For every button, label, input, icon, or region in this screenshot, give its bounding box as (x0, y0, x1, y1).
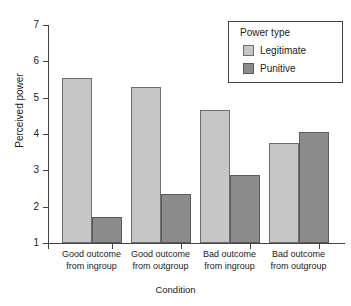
y-tick-label-3: 3 (33, 163, 39, 176)
bar-legitimate-bad-ingroup (200, 110, 230, 243)
x-category-label-3: Bad outcome from outgroup (246, 249, 351, 272)
y-tick-6: 6 (43, 61, 48, 62)
bar-chart: Perceived power Condition 1 2 3 4 5 6 7 (0, 0, 351, 306)
y-tick-3: 3 (43, 170, 48, 171)
legend-swatch-legitimate (243, 45, 254, 56)
y-tick-label-1: 1 (33, 236, 39, 249)
x-axis-title: Condition (0, 284, 351, 295)
bar-punitive-bad-ingroup (230, 175, 260, 243)
y-tick-4: 4 (43, 134, 48, 135)
legend-swatch-punitive (243, 63, 254, 74)
legend: Power type Legitimate Punitive (228, 21, 343, 83)
bar-legitimate-good-ingroup (62, 78, 92, 243)
legend-label-punitive: Punitive (260, 62, 296, 75)
bar-legitimate-bad-outgroup (269, 143, 299, 243)
y-tick-label-2: 2 (33, 200, 39, 213)
bar-punitive-good-outgroup (161, 194, 191, 243)
x-category-label-3-line2: from outgroup (246, 261, 351, 273)
y-tick-5: 5 (43, 98, 48, 99)
y-tick-label-5: 5 (33, 91, 39, 104)
bar-legitimate-good-outgroup (131, 87, 161, 243)
x-axis-line (48, 243, 345, 244)
legend-label-legitimate: Legitimate (260, 44, 306, 57)
y-tick-2: 2 (43, 207, 48, 208)
y-tick-label-6: 6 (33, 54, 39, 67)
x-category-label-3-line1: Bad outcome (246, 249, 351, 261)
y-tick-7: 7 (43, 25, 48, 26)
y-tick-label-7: 7 (33, 18, 39, 31)
y-axis-line (48, 25, 49, 243)
bar-punitive-bad-outgroup (299, 132, 329, 243)
y-axis-title: Perceived power (14, 56, 25, 166)
y-tick-label-4: 4 (33, 127, 39, 140)
legend-title: Power type (240, 27, 290, 38)
bar-punitive-good-ingroup (92, 217, 122, 243)
